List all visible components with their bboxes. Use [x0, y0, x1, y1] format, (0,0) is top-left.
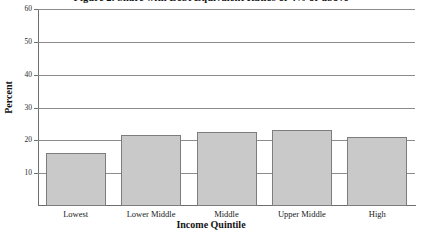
plot-area	[38, 9, 415, 206]
y-axis-tick-mark	[34, 9, 38, 10]
y-axis-tick-label: 50	[10, 37, 32, 46]
y-axis-tick-mark	[34, 173, 38, 174]
y-axis-tick-mark	[34, 140, 38, 141]
bar	[347, 137, 407, 206]
x-axis-tick-label: High	[340, 209, 415, 219]
y-axis-tick-label: 40	[10, 70, 32, 79]
y-axis-tick-label: 10	[10, 168, 32, 177]
chart-title: Figure 2. Share with Debt Equivalent Rat…	[0, 0, 422, 3]
chart-figure: Figure 2. Share with Debt Equivalent Rat…	[0, 0, 422, 232]
x-axis-tick-label: Upper Middle	[264, 209, 339, 219]
bar	[121, 135, 181, 206]
bar	[272, 130, 332, 206]
bar	[197, 132, 257, 206]
y-axis-tick-label: 30	[10, 103, 32, 112]
x-axis-tick-label: Lower Middle	[113, 209, 188, 219]
x-axis-tick-label: Middle	[189, 209, 264, 219]
x-axis-tick-label: Lowest	[38, 209, 113, 219]
y-axis-tick-mark	[34, 42, 38, 43]
x-axis-title: Income Quintile	[0, 219, 422, 230]
bar	[46, 153, 106, 206]
gridline	[38, 9, 415, 10]
gridline	[38, 108, 415, 109]
y-axis-tick-mark	[34, 108, 38, 109]
y-axis-tick-mark	[34, 75, 38, 76]
gridline	[38, 75, 415, 76]
y-axis-tick-label: 60	[10, 4, 32, 13]
y-axis-tick-label: 20	[10, 135, 32, 144]
gridline	[38, 42, 415, 43]
